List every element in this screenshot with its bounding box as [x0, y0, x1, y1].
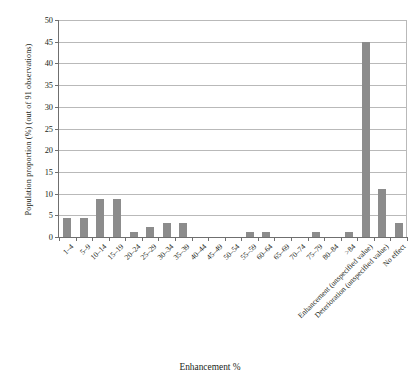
bar-slot[interactable] [109, 20, 126, 237]
y-tick-label: 10 [45, 189, 53, 198]
bar-slot[interactable] [341, 20, 358, 237]
x-tick-mark [357, 237, 358, 241]
x-tick-label: 15–19 [106, 242, 126, 262]
bar-slot[interactable] [158, 20, 175, 237]
y-axis-title: Population proportion (%) (out of 91 obs… [24, 15, 33, 245]
x-tick-mark [192, 237, 193, 241]
bar[interactable] [80, 218, 88, 237]
x-tick-label: 30–34 [155, 242, 175, 262]
x-tick-mark [109, 237, 110, 241]
y-tick-label: 25 [45, 124, 53, 133]
x-tick-label: 55–59 [238, 242, 258, 262]
x-tick-label: 25–29 [139, 242, 159, 262]
bar[interactable] [179, 223, 187, 237]
x-tick-label: 50–54 [222, 242, 242, 262]
x-tick-mark [175, 237, 176, 241]
x-tick-label: 20–24 [122, 242, 142, 262]
bar-slot[interactable] [241, 20, 258, 237]
x-tick-label: 65–69 [271, 242, 291, 262]
x-tick-mark [142, 237, 143, 241]
bar-slot[interactable] [357, 20, 374, 237]
x-tick-label: 70–74 [288, 242, 308, 262]
x-tick-mark [158, 237, 159, 241]
bar-slot[interactable] [59, 20, 76, 237]
x-tick-mark [390, 237, 391, 241]
bar[interactable] [163, 223, 171, 237]
bar-slot[interactable] [324, 20, 341, 237]
x-tick-label: 1–4 [61, 242, 75, 256]
bar[interactable] [312, 232, 320, 237]
y-tick-label: 30 [45, 102, 53, 111]
y-tick-label: 50 [45, 16, 53, 25]
bar[interactable] [113, 199, 121, 237]
bar[interactable] [96, 199, 104, 237]
plot-area: 05101520253035404550 1–45–910–1415–1920–… [58, 20, 407, 238]
x-tick-mark [407, 237, 408, 241]
bar[interactable] [395, 223, 403, 237]
bar-slot[interactable] [92, 20, 109, 237]
bar-slot[interactable] [274, 20, 291, 237]
bar-slot[interactable] [76, 20, 93, 237]
y-tick-label: 5 [49, 211, 53, 220]
y-tick-label: 20 [45, 146, 53, 155]
x-tick-mark [324, 237, 325, 241]
x-tick-label: 75–79 [304, 242, 324, 262]
bar-slot[interactable] [291, 20, 308, 237]
x-tick-mark [92, 237, 93, 241]
bar-slot[interactable] [225, 20, 242, 237]
bar[interactable] [378, 189, 386, 237]
bars-group [59, 20, 407, 237]
bar[interactable] [63, 218, 71, 237]
bar-slot[interactable] [390, 20, 407, 237]
x-tick-mark [258, 237, 259, 241]
bar-slot[interactable] [192, 20, 209, 237]
y-tick-label: 35 [45, 81, 53, 90]
bar-chart-figure: Population proportion (%) (out of 91 obs… [0, 0, 420, 391]
y-tick-label: 15 [45, 167, 53, 176]
x-tick-label: 35–39 [172, 242, 192, 262]
bar-slot[interactable] [308, 20, 325, 237]
x-axis-title: Enhancement % [0, 362, 420, 372]
x-tick-mark [341, 237, 342, 241]
x-tick-mark [308, 237, 309, 241]
y-tick-label: 0 [49, 233, 53, 242]
x-tick-mark [274, 237, 275, 241]
bar-slot[interactable] [208, 20, 225, 237]
x-tick-mark [225, 237, 226, 241]
bar[interactable] [362, 42, 370, 237]
bar-slot[interactable] [125, 20, 142, 237]
x-tick-mark [59, 237, 60, 241]
x-tick-label: 80–84 [321, 242, 341, 262]
bar[interactable] [262, 232, 270, 237]
bar-slot[interactable] [175, 20, 192, 237]
x-tick-label: 45–49 [205, 242, 225, 262]
x-tick-mark [291, 237, 292, 241]
bar-slot[interactable] [374, 20, 391, 237]
bar-slot[interactable] [258, 20, 275, 237]
bar[interactable] [130, 232, 138, 237]
x-tick-label: 60–64 [255, 242, 275, 262]
bar[interactable] [345, 232, 353, 237]
x-tick-mark [241, 237, 242, 241]
y-tick-label: 40 [45, 59, 53, 68]
y-tick-label: 45 [45, 37, 53, 46]
x-tick-label: 40–44 [188, 242, 208, 262]
x-tick-mark [76, 237, 77, 241]
bar[interactable] [246, 232, 254, 237]
bar[interactable] [146, 227, 154, 237]
x-tick-mark [125, 237, 126, 241]
bar-slot[interactable] [142, 20, 159, 237]
x-tick-mark [374, 237, 375, 241]
x-tick-label: 10–14 [89, 242, 109, 262]
x-tick-mark [208, 237, 209, 241]
